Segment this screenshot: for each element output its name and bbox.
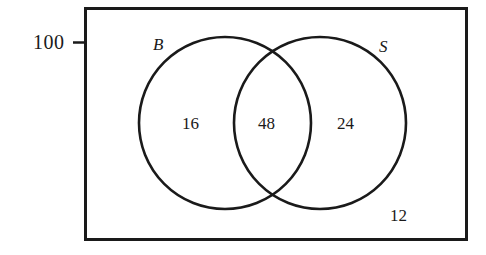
outside-count: 12 [390, 207, 407, 224]
universe-total-label: 100 [33, 32, 65, 52]
set-b-only-count: 16 [182, 115, 199, 132]
set-b-circle [139, 37, 311, 209]
venn-diagram-figure: 100 B S 16 48 24 12 [0, 0, 486, 255]
set-s-only-count: 24 [337, 115, 354, 132]
set-s-label: S [379, 38, 388, 55]
universal-set-rectangle [86, 9, 467, 240]
set-b-label: B [153, 36, 163, 53]
intersection-count: 48 [258, 115, 275, 132]
venn-diagram-canvas [0, 0, 486, 255]
